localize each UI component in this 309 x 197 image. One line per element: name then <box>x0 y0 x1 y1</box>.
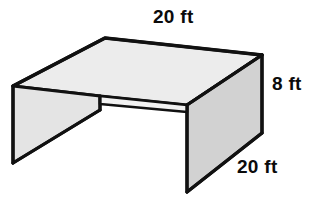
left-face <box>13 86 100 163</box>
dimension-label-bottom-depth: 20 ft <box>237 157 278 176</box>
geometry-figure: 20 ft 8 ft 20 ft <box>0 0 309 197</box>
dimension-label-right-height: 8 ft <box>272 74 302 93</box>
dimension-label-top-width: 20 ft <box>153 7 194 26</box>
